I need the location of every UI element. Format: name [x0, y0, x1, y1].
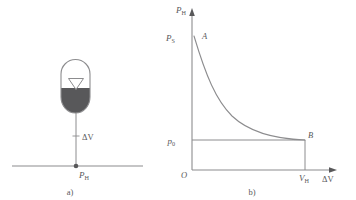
- x-axis-arrowhead: [329, 167, 337, 173]
- origin-label: O: [181, 170, 187, 180]
- panel-b: PH ΔV O PS p0 VH: [165, 5, 337, 197]
- x-tick-label-vh: VH: [299, 173, 310, 184]
- level-indicator-triangle: [69, 79, 84, 90]
- pressure-node-dot: [74, 164, 79, 169]
- y-tick-label-ps: PS: [165, 33, 176, 44]
- x-axis-title: ΔV: [322, 174, 334, 184]
- point-label-a: A: [201, 31, 208, 41]
- pressure-volume-curve: [194, 36, 305, 140]
- panel-a: ΔV PH a): [12, 60, 143, 198]
- y-tick-label-p0: p0: [166, 136, 175, 147]
- panel-b-caption: b): [248, 187, 255, 197]
- panel-a-delta-v-label: ΔV: [82, 132, 94, 142]
- figure-canvas: ΔV PH a) PH ΔV: [0, 0, 356, 200]
- point-label-b: B: [308, 130, 313, 140]
- y-axis-title: PH: [175, 5, 187, 16]
- panel-a-caption: a): [67, 187, 74, 197]
- panel-a-pressure-label: PH: [78, 170, 90, 181]
- figure-root: ΔV PH a) PH ΔV: [0, 0, 356, 200]
- y-axis-arrowhead: [189, 8, 195, 16]
